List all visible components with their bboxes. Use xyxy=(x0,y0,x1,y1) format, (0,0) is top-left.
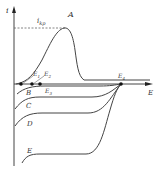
curve-e xyxy=(22,84,121,163)
curve-e-label: E xyxy=(26,147,32,155)
diagram-canvas: i E ikp A B C D E E1 E2 E3 E4 xyxy=(0,0,161,186)
point-marker xyxy=(119,82,123,86)
point-e1-label: E1 xyxy=(32,70,40,79)
polarization-diagram: i E ikp A B C D E E1 E2 E3 E4 xyxy=(0,0,161,186)
y-axis-arrow-icon xyxy=(12,6,16,13)
x-axis-label: E xyxy=(147,89,153,97)
curve-c-label: C xyxy=(26,102,32,110)
curve-d-label: D xyxy=(26,120,33,128)
point-e3-label: E3 xyxy=(44,87,52,96)
x-axis-arrow-icon xyxy=(145,82,153,86)
curve-b-label: B xyxy=(25,89,31,97)
point-e4-label: E4 xyxy=(117,72,125,81)
critical-current-label: ikp xyxy=(37,17,46,27)
y-axis-label: i xyxy=(6,6,9,15)
point-e2-label: E2 xyxy=(43,70,51,79)
point-marker xyxy=(38,82,42,86)
curve-a-label: A xyxy=(67,10,74,19)
